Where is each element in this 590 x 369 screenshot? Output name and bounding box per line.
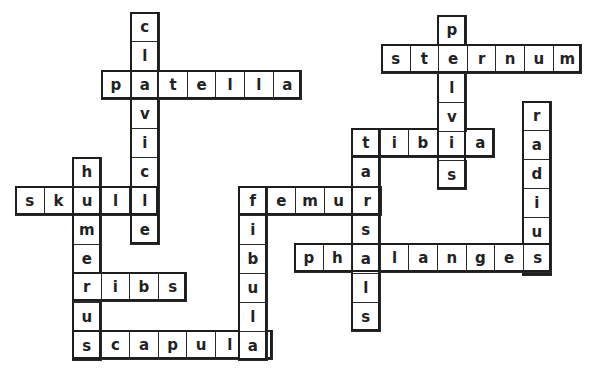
crossword-cell[interactable]: a	[130, 70, 160, 100]
crossword-cell[interactable]: m	[295, 186, 325, 216]
crossword-cell[interactable]: l	[215, 70, 245, 100]
crossword-cell[interactable]: s	[15, 186, 45, 216]
crossword-cell[interactable]: g	[466, 243, 496, 273]
crossword-cell[interactable]: p	[294, 243, 324, 273]
crossword-cell[interactable]: t	[351, 128, 381, 158]
crossword-cell[interactable]: i	[130, 128, 160, 158]
crossword-cell[interactable]: a	[522, 130, 552, 160]
crossword-cell[interactable]: r	[522, 101, 552, 131]
crossword-cell[interactable]: a	[129, 330, 159, 360]
crossword-cell[interactable]: p	[158, 330, 188, 360]
crossword-cell[interactable]: e	[494, 243, 524, 273]
crossword-cell[interactable]: s	[351, 302, 381, 332]
crossword-cell[interactable]: l	[437, 73, 467, 103]
crossword-cell[interactable]: a	[351, 157, 381, 187]
crossword-cell[interactable]: l	[101, 186, 131, 216]
crossword-cell[interactable]: u	[72, 302, 102, 332]
crossword-cell[interactable]: u	[324, 186, 354, 216]
crossword-cell[interactable]: s	[351, 215, 381, 245]
crossword-cell[interactable]: a	[351, 244, 381, 274]
crossword-cell[interactable]: n	[437, 243, 467, 273]
crossword-cell[interactable]: v	[437, 102, 467, 132]
crossword-cell[interactable]: r	[467, 44, 497, 74]
crossword-cell[interactable]: l	[380, 243, 410, 273]
crossword-cell[interactable]: s	[158, 272, 188, 302]
crossword-cell[interactable]: t	[158, 70, 188, 100]
crossword-cell[interactable]: c	[101, 330, 131, 360]
crossword-cell[interactable]: p	[437, 15, 467, 45]
crossword-cell[interactable]: k	[44, 186, 74, 216]
crossword-cell[interactable]: l	[130, 41, 160, 71]
crossword-cell[interactable]: i	[380, 128, 410, 158]
crossword-cell[interactable]: a	[273, 70, 303, 100]
crossword-cell[interactable]: i	[101, 272, 131, 302]
crossword-cell[interactable]: m	[553, 44, 583, 74]
crossword-cell[interactable]: a	[408, 243, 438, 273]
crossword-cell[interactable]: a	[238, 331, 268, 361]
crossword-cell[interactable]: i	[238, 215, 268, 245]
crossword-cell[interactable]: s	[381, 44, 411, 74]
crossword-cell[interactable]: s	[523, 243, 553, 273]
crossword-cell[interactable]: c	[130, 157, 160, 187]
crossword-cell[interactable]: m	[72, 215, 102, 245]
crossword-cell[interactable]: s	[437, 160, 467, 190]
crossword-cell[interactable]: r	[72, 272, 102, 302]
crossword-cell[interactable]: i	[522, 188, 552, 218]
crossword-cell[interactable]: f	[238, 186, 268, 216]
crossword-cell[interactable]: i	[437, 128, 467, 158]
crossword-cell[interactable]: p	[101, 70, 131, 100]
crossword-cell[interactable]: e	[72, 244, 102, 274]
crossword-cell[interactable]: u	[238, 273, 268, 303]
crossword-cell[interactable]: b	[408, 128, 438, 158]
crossword-board: clavicleptellaskulhmerusribscapulafibula…	[0, 0, 590, 369]
crossword-cell[interactable]: r	[352, 186, 382, 216]
crossword-cell[interactable]: e	[130, 215, 160, 245]
crossword-cell[interactable]: u	[72, 186, 102, 216]
crossword-cell[interactable]: e	[438, 44, 468, 74]
crossword-cell[interactable]: e	[187, 70, 217, 100]
crossword-cell[interactable]: l	[238, 302, 268, 332]
crossword-cell[interactable]: c	[130, 12, 160, 42]
crossword-cell[interactable]: u	[524, 44, 554, 74]
crossword-cell[interactable]: b	[238, 244, 268, 274]
crossword-cell[interactable]: h	[72, 157, 102, 187]
crossword-cell[interactable]: a	[465, 128, 495, 158]
crossword-cell[interactable]: h	[323, 243, 353, 273]
crossword-cell[interactable]: d	[522, 159, 552, 189]
crossword-cell[interactable]: s	[72, 331, 102, 361]
crossword-cell[interactable]: b	[129, 272, 159, 302]
crossword-cell[interactable]: e	[267, 186, 297, 216]
crossword-cell[interactable]: u	[186, 330, 216, 360]
crossword-cell[interactable]: v	[130, 99, 160, 129]
crossword-cell[interactable]: t	[410, 44, 440, 74]
crossword-cell[interactable]: n	[495, 44, 525, 74]
crossword-cell[interactable]: l	[244, 70, 274, 100]
crossword-cell[interactable]: l	[351, 273, 381, 303]
crossword-cell[interactable]: l	[130, 186, 160, 216]
